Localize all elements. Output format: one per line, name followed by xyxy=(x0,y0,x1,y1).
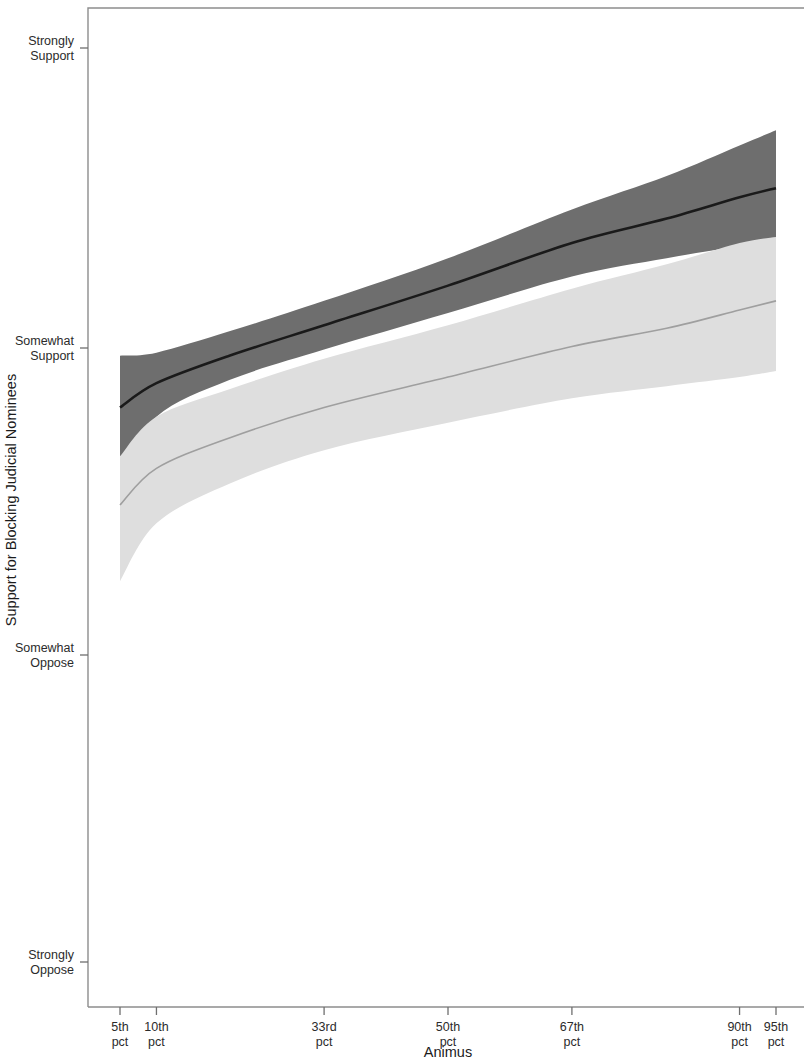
x-tick-label: 10th xyxy=(144,1020,168,1034)
confidence-bands-group xyxy=(120,130,776,581)
x-tick-label: pct xyxy=(564,1035,581,1049)
plot-frame xyxy=(88,8,804,1007)
plot-frame-path xyxy=(88,8,804,1007)
x-axis-title: Animus xyxy=(424,1044,472,1060)
y-tick-label: Support xyxy=(30,349,74,363)
x-tick-label: pct xyxy=(112,1035,129,1049)
x-axis-ticks-group: 5thpct10thpct33rdpct50thpct67thpct90thpc… xyxy=(111,1007,788,1049)
y-tick-label: Oppose xyxy=(30,963,74,977)
y-tick-label: Somewhat xyxy=(15,334,75,348)
y-axis-ticks-group: StronglySupportSomewhatSupportSomewhatOp… xyxy=(15,34,88,977)
x-tick-label: 95th xyxy=(764,1020,788,1034)
y-tick-label: Strongly xyxy=(28,34,75,48)
x-tick-label: pct xyxy=(731,1035,748,1049)
x-tick-label: 90th xyxy=(727,1020,751,1034)
x-tick-label: 33rd xyxy=(312,1020,337,1034)
x-tick-label: 5th xyxy=(111,1020,128,1034)
chart-canvas: StronglySupportSomewhatSupportSomewhatOp… xyxy=(0,0,804,1064)
y-tick-label: Strongly xyxy=(28,948,75,962)
y-tick-label: Oppose xyxy=(30,656,74,670)
chart-figure: StronglySupportSomewhatSupportSomewhatOp… xyxy=(0,0,804,1064)
y-tick-label: Support xyxy=(30,49,74,63)
x-tick-label: 67th xyxy=(560,1020,584,1034)
x-tick-label: pct xyxy=(316,1035,333,1049)
x-tick-label: pct xyxy=(768,1035,785,1049)
x-tick-label: pct xyxy=(148,1035,165,1049)
y-tick-label: Somewhat xyxy=(15,641,75,655)
x-tick-label: 50th xyxy=(436,1020,460,1034)
y-axis-title: Support for Blocking Judicial Nominees xyxy=(3,374,19,626)
